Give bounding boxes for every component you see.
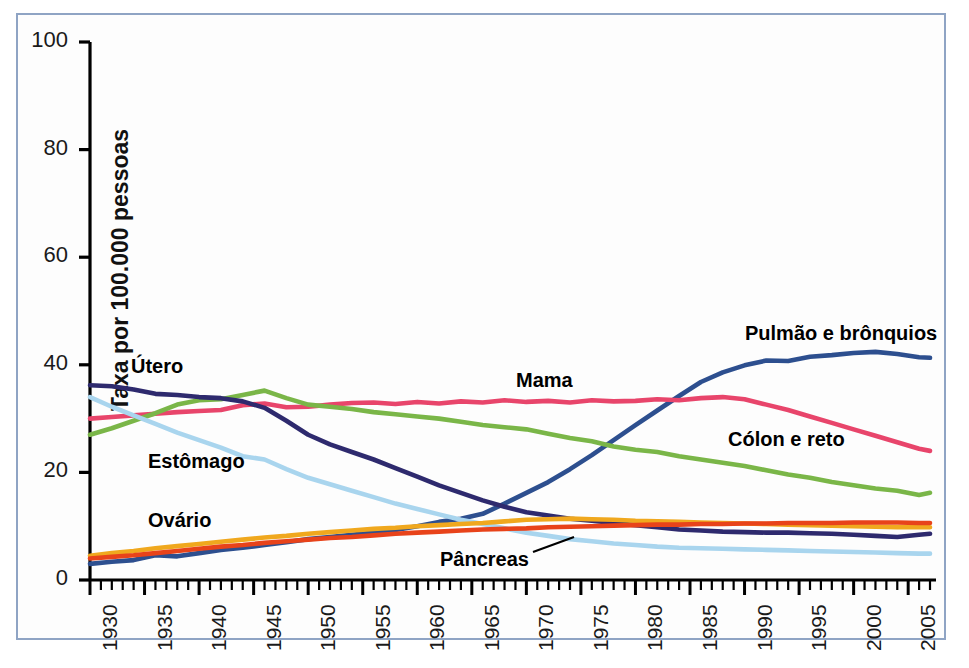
x-tick-label: 1990 [753, 604, 777, 651]
pancreas-label: Pâncreas [440, 548, 529, 571]
chart-figure: Taxa por 100.000 pessoas 020406080100 19… [0, 0, 969, 668]
x-tick-label: 1940 [207, 604, 231, 651]
x-tick-label: 1995 [807, 604, 831, 651]
y-tick-label: 80 [16, 135, 68, 161]
x-tick-label: 1960 [425, 604, 449, 651]
pancreas-leader [533, 537, 574, 552]
x-tick-label: 1985 [698, 604, 722, 651]
leader-lines [533, 537, 574, 552]
colon-label: Cólon e reto [728, 428, 845, 451]
utero-label: Útero [131, 355, 183, 378]
y-tick-label: 40 [16, 350, 68, 376]
x-tick-label: 1950 [316, 604, 340, 651]
x-tick-label: 2005 [916, 604, 940, 651]
y-tick-label: 20 [16, 457, 68, 483]
estomago-label: Estômago [148, 450, 245, 473]
y-tick-label: 60 [16, 242, 68, 268]
x-tick-label: 2000 [862, 604, 886, 651]
y-tick-label: 0 [16, 565, 68, 591]
x-tick-label: 1965 [480, 604, 504, 651]
mama-label: Mama [516, 369, 573, 392]
ovario-label: Ovário [148, 509, 211, 532]
y-tick-label: 100 [16, 27, 68, 53]
x-tick-label: 1935 [153, 604, 177, 651]
x-tick-label: 1955 [371, 604, 395, 651]
x-tick-label: 1975 [589, 604, 613, 651]
x-tick-label: 1945 [262, 604, 286, 651]
x-tick-label: 1970 [534, 604, 558, 651]
x-tick-label: 1930 [98, 604, 122, 651]
x-tick-label: 1980 [643, 604, 667, 651]
pulmao-label: Pulmão e brônquios [745, 322, 937, 345]
